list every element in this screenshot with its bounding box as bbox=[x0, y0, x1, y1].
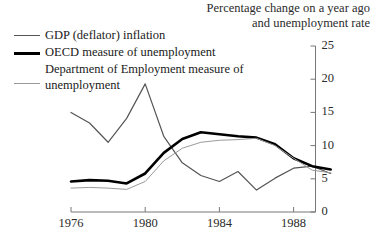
x-axis-tick-label: 1988 bbox=[274, 216, 314, 231]
series-line bbox=[71, 84, 331, 190]
chart-figure: Percentage change on a year ago and unem… bbox=[0, 0, 376, 252]
x-axis-tick-label: 1984 bbox=[199, 216, 239, 231]
x-axis-tick-label: 1976 bbox=[51, 216, 91, 231]
y-axis-tick-label: 25 bbox=[322, 38, 335, 53]
y-axis-tick-label: 20 bbox=[322, 71, 335, 86]
plot-area bbox=[0, 0, 376, 252]
y-axis-tick-label: 10 bbox=[322, 138, 335, 153]
x-axis-tick-label: 1980 bbox=[125, 216, 165, 231]
y-axis-tick-label: 15 bbox=[322, 104, 335, 119]
y-axis-tick-label: 0 bbox=[322, 204, 328, 219]
y-axis-tick-label: 5 bbox=[322, 171, 328, 186]
